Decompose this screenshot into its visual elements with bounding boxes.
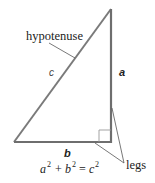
legs-leader-line-a	[112, 108, 124, 163]
eq-b: b	[65, 162, 71, 176]
right-angle-marker	[99, 130, 111, 142]
eq-a-exp: 2	[47, 160, 51, 169]
legs-label: legs	[126, 158, 146, 172]
eq-equals: =	[79, 162, 86, 176]
legs-leader-line-b	[95, 143, 124, 163]
eq-c-exp: 2	[95, 160, 99, 169]
eq-plus: +	[55, 162, 62, 176]
side-b-label: b	[64, 147, 71, 159]
pythagorean-equation: a 2 + b 2 = c 2	[40, 160, 99, 176]
side-c-label: c	[49, 67, 54, 78]
eq-a: a	[40, 162, 46, 176]
right-triangle-diagram: hypotenuse c a b legs a 2 + b 2 = c 2	[0, 0, 155, 183]
side-a-label: a	[119, 66, 125, 78]
eq-b-exp: 2	[72, 160, 76, 169]
hypotenuse-label: hypotenuse	[26, 29, 83, 43]
hypotenuse-leader-line	[49, 43, 75, 58]
